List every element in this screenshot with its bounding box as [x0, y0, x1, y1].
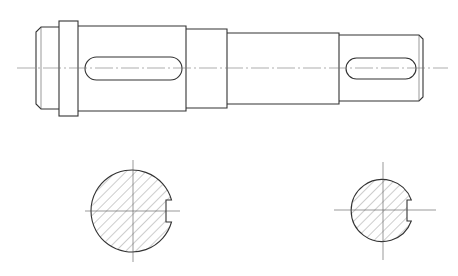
- step-section: [186, 29, 227, 108]
- main-body: [78, 26, 186, 111]
- section-view-large: [85, 160, 180, 262]
- left-keyway: [85, 57, 182, 80]
- right-keyway: [346, 58, 416, 79]
- mid-journal: [227, 33, 339, 104]
- front-view: [17, 21, 448, 116]
- shaft-drawing: [0, 0, 458, 276]
- section-view-small: [334, 162, 436, 260]
- section-small-outline: [351, 179, 411, 241]
- collar: [59, 21, 78, 116]
